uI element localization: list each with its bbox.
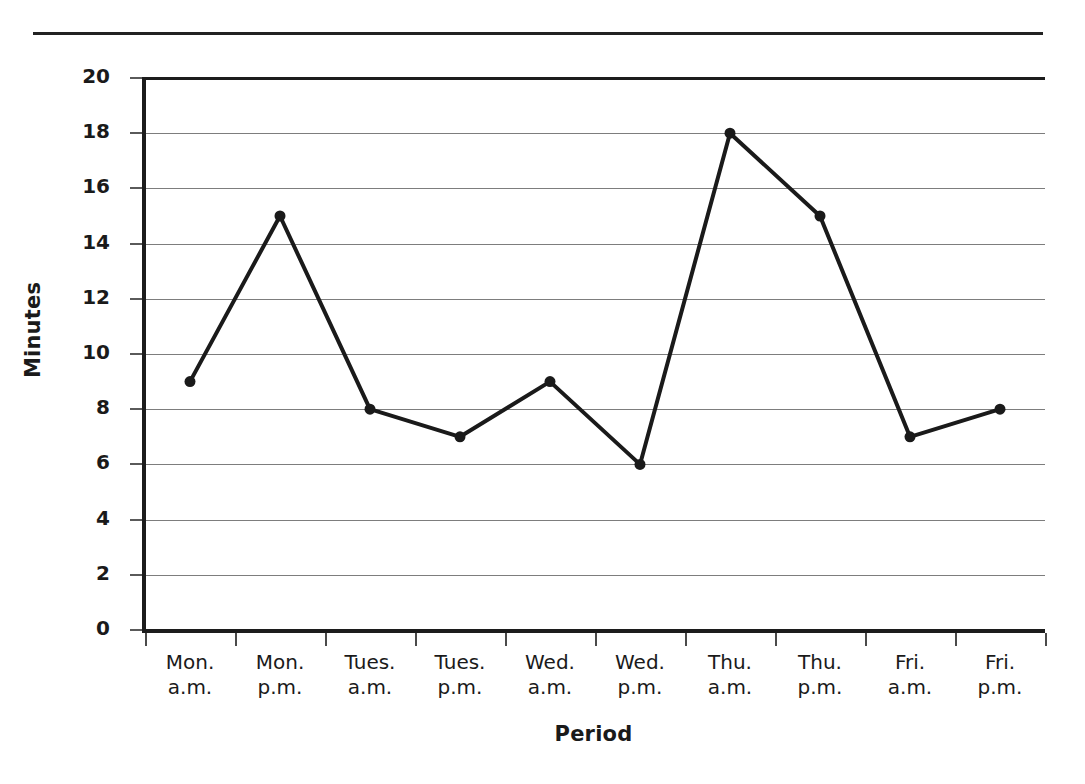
y-axis-tick-label: 6 <box>50 450 110 474</box>
x-axis-tick-mark <box>505 633 507 646</box>
data-point-marker: Thu. p.m.: 15 <box>815 211 826 222</box>
y-axis-title: Minutes <box>21 270 45 390</box>
plot-area: Mon. a.m.: 9Mon. p.m.: 15Tues. a.m.: 8Tu… <box>142 77 1045 633</box>
y-axis-tick-mark <box>130 408 142 410</box>
x-axis-tick-mark <box>415 633 417 646</box>
data-point-marker: Tues. a.m.: 8 <box>365 404 376 415</box>
x-axis-tick-label: Thu. p.m. <box>775 650 865 700</box>
data-point-marker: Tues. p.m.: 7 <box>455 431 466 442</box>
data-point-marker: Thu. a.m.: 18 <box>725 128 736 139</box>
x-axis-tick-mark <box>1045 633 1047 646</box>
x-axis-tick-mark <box>235 633 237 646</box>
x-axis-tick-label: Wed. p.m. <box>595 650 685 700</box>
y-axis-tick-mark <box>130 243 142 245</box>
y-axis-tick-mark <box>130 463 142 465</box>
y-axis-tick-mark <box>130 298 142 300</box>
x-axis-tick-mark <box>775 633 777 646</box>
y-axis-tick-mark <box>130 187 142 189</box>
y-axis-tick-label: 12 <box>50 285 110 309</box>
y-axis-tick-mark <box>130 574 142 576</box>
y-axis-tick-mark <box>130 353 142 355</box>
y-axis-tick-label: 18 <box>50 119 110 143</box>
y-axis-tick-label: 4 <box>50 506 110 530</box>
y-axis-tick-label: 20 <box>50 64 110 88</box>
x-axis-tick-mark <box>955 633 957 646</box>
x-axis-tick-label: Tues. p.m. <box>415 650 505 700</box>
x-axis-tick-label: Tues. a.m. <box>325 650 415 700</box>
data-point-marker: Mon. p.m.: 15 <box>275 211 286 222</box>
y-axis-tick-mark <box>130 77 142 79</box>
data-point-marker: Wed. p.m.: 6 <box>635 459 646 470</box>
y-axis-tick-label: 2 <box>50 561 110 585</box>
y-axis-tick-mark <box>130 519 142 521</box>
x-axis-tick-mark <box>595 633 597 646</box>
y-axis-tick-label: 14 <box>50 230 110 254</box>
x-axis-title: Period <box>142 722 1045 746</box>
x-axis-tick-label: Mon. a.m. <box>145 650 235 700</box>
x-axis-tick-mark <box>325 633 327 646</box>
y-axis-tick-label: 16 <box>50 174 110 198</box>
data-point-marker: Wed. a.m.: 9 <box>545 376 556 387</box>
y-axis-tick-label: 8 <box>50 395 110 419</box>
x-axis-tick-label: Wed. a.m. <box>505 650 595 700</box>
series-line <box>190 133 1000 464</box>
x-axis-tick-mark <box>145 633 147 646</box>
data-point-marker: Fri. a.m.: 7 <box>905 431 916 442</box>
top-divider-rule <box>33 32 1043 35</box>
y-axis-tick-mark <box>130 132 142 134</box>
x-axis-tick-label: Fri. a.m. <box>865 650 955 700</box>
x-axis-tick-label: Fri. p.m. <box>955 650 1045 700</box>
x-axis-tick-label: Thu. a.m. <box>685 650 775 700</box>
data-point-marker: Fri. p.m.: 8 <box>995 404 1006 415</box>
y-axis-tick-label: 0 <box>50 616 110 640</box>
x-axis-tick-mark <box>685 633 687 646</box>
y-axis-tick-mark <box>130 629 142 631</box>
x-axis-tick-mark <box>865 633 867 646</box>
x-axis-tick-label: Mon. p.m. <box>235 650 325 700</box>
chart-page: Minutes Period 02468101214161820 Mon. a.… <box>0 0 1085 784</box>
data-point-marker: Mon. a.m.: 9 <box>185 376 196 387</box>
data-series-minutes: Mon. a.m.: 9Mon. p.m.: 15Tues. a.m.: 8Tu… <box>142 77 1045 633</box>
y-axis-tick-label: 10 <box>50 340 110 364</box>
